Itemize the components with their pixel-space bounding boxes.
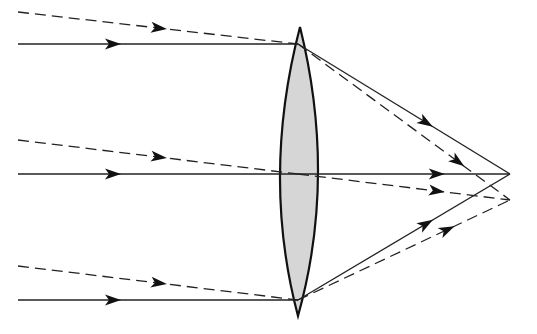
arrowhead-icon <box>150 22 167 35</box>
solid-refracted-arrow-icon <box>416 114 435 132</box>
refracted-ray <box>298 44 510 200</box>
dashed-ray-3 <box>18 200 510 300</box>
solid-refracted-arrow-icon <box>416 215 435 233</box>
refracted-ray <box>298 174 510 300</box>
dashed-refracted-arrow-icon <box>448 152 467 170</box>
arrowhead-icon <box>150 151 167 164</box>
lens-body <box>280 27 318 316</box>
dashed-incident-arrow-icon <box>150 22 167 35</box>
dashed-incident-arrow-icon <box>150 277 167 290</box>
dashed-incident-arrow-icon <box>150 151 167 164</box>
solid-ray-1 <box>18 44 510 174</box>
refracted-ray <box>298 44 510 174</box>
refracted-ray <box>298 200 510 300</box>
arrowhead-icon <box>438 221 457 238</box>
lens-ray-diagram <box>0 0 537 334</box>
arrowhead-icon <box>448 152 467 170</box>
dashed-refracted-arrow-icon <box>428 185 445 198</box>
refracted-ray <box>298 174 510 200</box>
arrowhead-icon <box>416 215 435 233</box>
dashed-refracted-arrow-icon <box>438 221 457 238</box>
diagram-canvas <box>0 0 537 334</box>
arrowhead-icon <box>428 185 445 198</box>
arrowhead-icon <box>150 277 167 290</box>
arrowhead-icon <box>416 114 435 132</box>
dashed-ray-set <box>18 12 510 300</box>
biconvex-lens <box>280 27 318 316</box>
